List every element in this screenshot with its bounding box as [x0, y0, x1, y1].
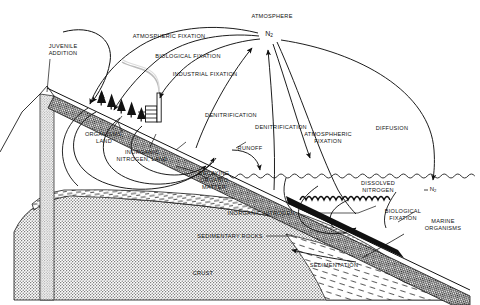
label-biological-fixation-marine: BIOLOGICAL FIXATION — [385, 208, 421, 222]
label-n2-atmospheric: N2 — [265, 30, 273, 37]
label-atmospheric-fixation-marine: ATMOSPHHERIC FIXATION — [304, 131, 352, 145]
label-decaying-organic-matter: DECAYING ORGANIC MATTER — [199, 170, 230, 192]
leader-juvenile-addition — [47, 59, 50, 92]
volcano-left-flank — [0, 94, 40, 152]
label-crust: CRUST — [193, 270, 214, 277]
label-atmosphere: ATMOSPHERE — [251, 13, 292, 20]
label-sedimentary-rocks: SEDIMENTARY ROCKS — [197, 233, 262, 240]
label-n2-dissolved: N2 — [430, 186, 437, 192]
label-marine-organisms: MARINE ORGANISMS — [425, 218, 461, 232]
label-runoff: RUNOFF — [238, 145, 263, 152]
label-industrial-fixation: INDUSTRIAL FIXATION — [173, 71, 238, 78]
arrow-runoff — [232, 150, 260, 170]
arrow-biological-fixation-marine-lower — [338, 190, 356, 214]
arrow-juvenile-addition — [63, 30, 110, 102]
arrow-diffusion — [281, 40, 434, 180]
label-inorganic-nitrogen-land: INORGANIC NITROGEN, LAND — [116, 149, 167, 163]
arrow-denitrification-land — [196, 48, 252, 148]
nitrogen-cycle-diagram: ATMOSPHERE N2 N2 JUVENILE ADDITION ATMOS… — [0, 0, 480, 305]
label-denitrification-marine: DENITRIFICATION — [255, 124, 307, 131]
label-sedimentation: SEDIMENTATION — [310, 262, 358, 269]
label-inorganic-nitrogen-marine: INORGANIC NITROGEN, — [227, 210, 296, 217]
label-denitrification-land: DENITRIFICATION — [205, 112, 257, 119]
label-diffusion: DIFFUSION — [376, 125, 408, 132]
label-biological-fixation-land: BIOLOGICAL FIXATION — [155, 53, 220, 60]
label-atmospheric-fixation-land: ATMOSPHERIC FIXATION — [133, 33, 206, 40]
arrow-denitrification-marine — [268, 50, 275, 190]
arrow-biological-fixation-marine-upper — [277, 42, 338, 190]
leader-inorganic-nitrogen-land-2 — [176, 142, 186, 150]
label-organisms-land: ORGANISMS, LAND — [85, 131, 123, 145]
volcanic-vent — [40, 86, 54, 300]
label-dissolved-nitrogen: DISSOLVED NITROGEN — [361, 180, 395, 194]
leader-inorganic-nitrogen-marine — [310, 206, 376, 213]
label-juvenile-addition: JUVENILE ADDITION — [49, 43, 78, 57]
arrow-industrial-fixation — [160, 39, 260, 98]
